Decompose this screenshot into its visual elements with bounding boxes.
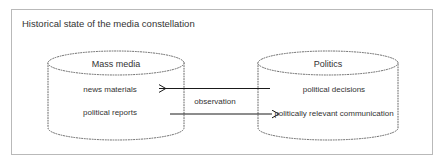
edge-label-observation: observation bbox=[192, 98, 237, 106]
diagram-canvas: Historical state of the media constellat… bbox=[0, 0, 444, 165]
node-item-political-decisions: political decisions bbox=[303, 86, 365, 94]
node-item-news-materials: news materials bbox=[83, 86, 136, 94]
node-item-political-reports: political reports bbox=[83, 109, 137, 117]
page-title: Historical state of the media constellat… bbox=[22, 19, 195, 29]
node-item-politically-relevant-communication: politically relevant communication bbox=[274, 110, 393, 118]
node-title-politics: Politics bbox=[314, 60, 343, 69]
node-title-mass-media: Mass media bbox=[92, 60, 141, 69]
